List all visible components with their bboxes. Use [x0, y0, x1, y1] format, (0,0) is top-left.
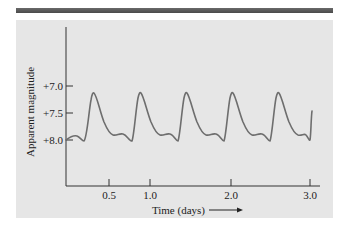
y-axis-title: Apparent magnitude [24, 67, 36, 157]
x-tick-label: 2.0 [224, 189, 238, 201]
x-tick-label: 1.0 [143, 189, 157, 201]
light-curve-line [66, 93, 312, 141]
x-ticks: 0.5 1.0 2.0 3.0 [102, 179, 317, 201]
arrow-right-icon [209, 208, 243, 213]
y-tick-label: +7.0 [43, 80, 63, 92]
y-tick-label: +8.0 [43, 134, 63, 146]
light-curve-chart: +7.0 +7.5 +8.0 0.5 1.0 2.0 3.0 Time (day… [0, 0, 348, 234]
x-axis-title: Time (days) [152, 204, 205, 217]
y-ticks: +7.0 +7.5 +8.0 [43, 80, 73, 146]
x-tick-label: 3.0 [303, 189, 317, 201]
x-tick-label: 0.5 [102, 189, 116, 201]
y-tick-label: +7.5 [43, 107, 63, 119]
